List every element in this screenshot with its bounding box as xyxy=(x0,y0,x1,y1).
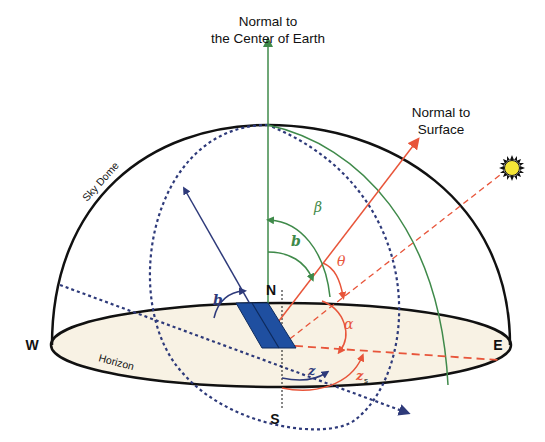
b-label-left: b xyxy=(213,292,223,308)
compass-west: W xyxy=(25,337,39,353)
compass-south: S xyxy=(270,411,279,427)
compass-east: E xyxy=(493,337,502,353)
b-label-upper: b xyxy=(291,233,301,249)
z-label: z xyxy=(307,363,316,378)
b-angle-arc-upper xyxy=(268,252,312,278)
normal-earth-label-line1: Normal to xyxy=(239,14,298,29)
beta-angle-arc xyxy=(270,220,330,297)
alpha-label: α xyxy=(344,316,354,332)
beta-label: β xyxy=(313,199,322,215)
normal-earth-label-line2: the Center of Earth xyxy=(211,31,325,46)
svg-text:z: z xyxy=(355,368,364,383)
sun-icon xyxy=(499,155,525,181)
theta-label: θ xyxy=(337,253,346,269)
compass-north: N xyxy=(266,282,276,298)
sun-angle-diagram: Normal to the Center of Earth Normal to … xyxy=(0,0,545,442)
normal-surface-label-line2: Surface xyxy=(418,122,465,137)
svg-text:s: s xyxy=(364,376,368,385)
normal-surface-label-line1: Normal to xyxy=(412,105,471,120)
